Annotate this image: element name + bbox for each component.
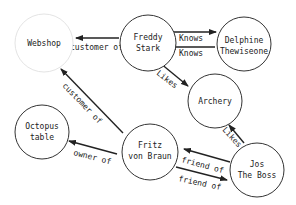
- edge-label: customer of: [70, 43, 123, 52]
- edge-label: Knows: [179, 34, 203, 43]
- node-octopus-table[interactable]: Octopus table: [15, 105, 69, 159]
- edge-label: customer of: [61, 81, 104, 125]
- node-fritz-von-braun[interactable]: Fritz von Braun: [122, 124, 178, 180]
- node-label: Delphine: [225, 36, 264, 45]
- graph-diagram: customer of Knows Knows Likes customer o…: [0, 0, 296, 205]
- node-label: table: [30, 133, 54, 142]
- node-webshop[interactable]: Webshop: [15, 14, 73, 72]
- edge-fritz-customer-of-webshop[interactable]: customer of: [61, 69, 123, 133]
- nodes: Webshop Freddy Stark Delphine Thewiseone…: [15, 14, 284, 197]
- node-jos-the-boss[interactable]: Jos The Boss: [230, 143, 284, 197]
- node-delphine-thewiseone[interactable]: Delphine Thewiseone: [217, 17, 271, 71]
- node-label: Webshop: [27, 39, 61, 48]
- graph-canvas: customer of Knows Knows Likes customer o…: [0, 0, 296, 205]
- edge-freddy-customer-of-webshop[interactable]: customer of: [70, 38, 123, 52]
- node-label: Jos: [250, 160, 265, 169]
- edge-label: Knows: [179, 49, 203, 58]
- node-label: Archery: [198, 97, 232, 106]
- node-freddy-stark[interactable]: Freddy Stark: [120, 15, 176, 71]
- edge-jos-likes-archery[interactable]: Likes: [221, 125, 244, 149]
- node-label: The Boss: [238, 171, 277, 180]
- node-label: Freddy: [134, 33, 163, 42]
- node-label: Octopus: [25, 122, 59, 131]
- edge-jos-friend-of-fritz[interactable]: friend of: [180, 149, 230, 175]
- edge-label: Likes: [155, 68, 180, 90]
- node-label: von Braun: [128, 152, 172, 161]
- node-label: Fritz: [138, 141, 162, 150]
- edge-fritz-owner-of-octopus[interactable]: owner of: [69, 141, 117, 166]
- node-label: Stark: [136, 44, 160, 53]
- node-label: Thewiseone: [220, 47, 268, 56]
- node-archery[interactable]: Archery: [188, 74, 242, 128]
